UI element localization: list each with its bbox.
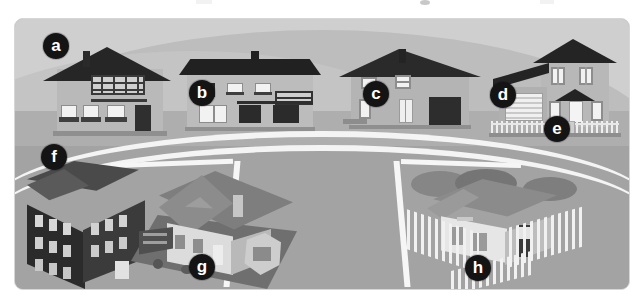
marker-a-label: a [51,37,60,54]
marker-b[interactable]: b [189,80,215,106]
marker-a[interactable]: a [43,33,69,59]
house-g-chimney [233,195,243,217]
marker-d-label: d [498,86,508,103]
marker-g-label: g [197,258,207,275]
top-edge-artifact [196,0,212,4]
marker-f[interactable]: f [41,144,67,170]
house-d-roof [533,39,617,63]
marker-b-label: b [197,84,207,101]
house-d-front-door [569,101,583,123]
building-f-entrance [115,261,129,279]
house-a-door [135,105,151,133]
house-g-shrub [153,259,163,269]
house-b-window-dark [239,105,261,123]
house-d-porch-canopy [555,89,595,101]
illustration-panel: a b c d e f g h [14,18,630,290]
house-g-door [213,245,223,265]
top-edge-artifact [420,0,430,5]
house-c-roof [339,49,481,77]
house-c [337,45,487,133]
house-c-garage-door [429,97,461,125]
house-b-roof [179,59,321,75]
marker-c[interactable]: c [363,81,389,107]
marker-g[interactable]: g [189,254,215,280]
marker-c-label: c [371,85,380,102]
screenshot-canvas: a b c d e f g h [0,0,642,299]
house-h [397,169,587,289]
marker-h[interactable]: h [465,255,491,281]
building-f [21,161,149,289]
marker-e-label: e [552,120,561,137]
marker-d[interactable]: d [490,82,516,108]
house-b-chimney [251,51,259,61]
marker-h-label: h [473,259,483,276]
house-a-base [53,131,167,136]
house-b-window-dark [273,105,299,123]
house-a-chimney [83,51,90,67]
top-edge-artifact [540,0,554,4]
house-c-door [399,99,413,123]
house-g [131,171,301,290]
marker-e[interactable]: e [544,116,570,142]
house-c-chimney [399,49,406,63]
marker-f-label: f [51,148,57,165]
